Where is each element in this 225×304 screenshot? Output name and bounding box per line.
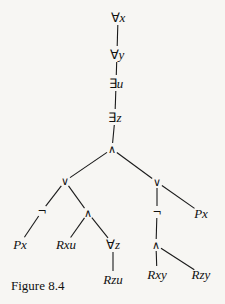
tree-edge	[69, 186, 85, 208]
bound-variable: y	[119, 47, 125, 62]
bound-variable: u	[117, 76, 124, 91]
quantifier-node: ∀x	[111, 11, 126, 24]
atomic-formula-node: Rxu	[56, 238, 76, 251]
quantifier-symbol: ∃	[109, 76, 117, 91]
bound-variable: z	[115, 237, 120, 252]
quantifier-node: ∃u	[109, 77, 124, 90]
tree-edge	[113, 125, 115, 143]
tree-edge	[92, 218, 108, 238]
connective-node: ¬	[37, 206, 46, 217]
tree-edge	[46, 186, 62, 206]
connective-node: ∧	[84, 208, 92, 219]
quantifier-symbol: ∀	[111, 10, 120, 25]
quantifier-symbol: ∀	[106, 237, 115, 252]
tree-edge	[70, 152, 107, 177]
formula-tree-diagram: ∀x∀y∃u∃z∧∨∨¬∧¬PxPxRxu∀z∧RzuRxyRzy	[0, 0, 225, 304]
tree-edge	[117, 153, 152, 179]
atomic-formula-node: Rzu	[103, 273, 123, 286]
connective-node: ∧	[152, 240, 160, 251]
atomic-formula-node: Px	[194, 207, 208, 220]
tree-edge	[24, 216, 38, 237]
tree-edge	[156, 251, 157, 266]
connective-node: ∨	[61, 176, 69, 187]
bound-variable: z	[116, 110, 121, 125]
quantifier-symbol: ∀	[110, 47, 119, 62]
tree-edge	[115, 91, 116, 109]
connective-node: ∧	[108, 144, 116, 155]
tree-edge	[117, 25, 118, 46]
quantifier-node: ∀z	[106, 238, 120, 251]
tree-edge	[162, 186, 195, 209]
atomic-formula-node: Rxy	[147, 268, 166, 281]
tree-edge	[71, 218, 85, 238]
quantifier-node: ∀y	[110, 48, 125, 61]
figure-caption: Figure 8.4	[11, 278, 64, 294]
atomic-formula-node: Px	[13, 238, 27, 251]
atomic-formula-node: Rzy	[192, 268, 211, 281]
tree-edge	[156, 218, 157, 239]
connective-node: ¬	[152, 207, 161, 218]
quantifier-node: ∃z	[108, 111, 121, 124]
connective-node: ∨	[153, 177, 161, 188]
quantifier-symbol: ∃	[108, 110, 116, 125]
bound-variable: x	[120, 10, 126, 25]
